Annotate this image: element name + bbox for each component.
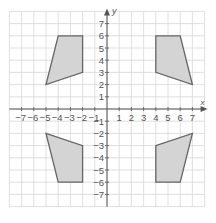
y-tick-label: −7 <box>93 189 104 200</box>
y-tick-label: 5 <box>99 43 104 54</box>
coordinate-plane: xy −7−6−5−4−3−2−112345677654321−1−2−3−4−… <box>0 0 216 223</box>
x-tick-label: −7 <box>15 112 26 123</box>
x-tick-label: 6 <box>178 112 183 123</box>
y-axis-arrow-icon <box>104 8 110 15</box>
x-tick-label: 4 <box>153 112 158 123</box>
quadrilateral-Q3 <box>46 133 83 182</box>
y-tick-label: −6 <box>93 177 104 188</box>
y-axis-label: y <box>111 6 117 16</box>
y-tick-label: 6 <box>99 30 104 41</box>
x-tick-label: 5 <box>165 112 170 123</box>
y-tick-label: 3 <box>99 67 104 78</box>
y-tick-label: −3 <box>93 140 104 151</box>
x-tick-label: 2 <box>129 112 134 123</box>
x-tick-label: −3 <box>64 112 75 123</box>
x-tick-label: 7 <box>190 112 195 123</box>
x-tick-label: 3 <box>141 112 146 123</box>
y-tick-label: 4 <box>99 55 104 66</box>
y-tick-label: −2 <box>93 128 104 139</box>
y-tick-label: 1 <box>99 91 104 102</box>
y-tick-label: 2 <box>99 79 104 90</box>
x-tick-label: −6 <box>27 112 38 123</box>
quadrilateral-Q4 <box>156 133 193 182</box>
x-tick-label: −2 <box>76 112 87 123</box>
y-tick-label: −5 <box>93 165 104 176</box>
x-tick-label: −5 <box>40 112 51 123</box>
x-tick-label: −4 <box>52 112 63 123</box>
y-tick-label: −1 <box>93 116 104 127</box>
quadrilateral-Q1 <box>156 36 193 85</box>
quadrilateral-Q2 <box>46 36 83 85</box>
y-tick-label: −4 <box>93 152 104 163</box>
y-tick-label: 7 <box>99 18 104 29</box>
x-tick-label: 1 <box>117 112 122 123</box>
